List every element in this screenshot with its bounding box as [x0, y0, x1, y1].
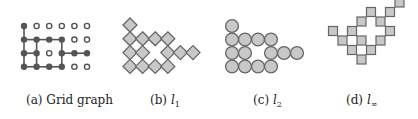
circle-shape: [239, 33, 252, 46]
square-shape: [357, 55, 366, 64]
filled-node: [84, 50, 90, 56]
circle-shape: [226, 47, 239, 60]
filled-node: [21, 23, 27, 29]
circle-shape: [265, 60, 278, 73]
square-shape: [348, 27, 357, 36]
l1-diamonds-panel: [123, 18, 200, 73]
diamond-shape: [161, 59, 175, 73]
circle-shape: [252, 60, 265, 73]
filled-node: [46, 64, 52, 70]
circle-shape: [265, 47, 278, 60]
caption-subscript: 1: [175, 100, 180, 109]
linf-squares-panel: [329, 0, 405, 64]
caption-letter: (b): [150, 93, 167, 107]
square-shape: [329, 27, 338, 36]
filled-node: [21, 36, 27, 42]
circle-shape: [239, 60, 252, 73]
square-shape: [348, 46, 357, 55]
caption-a: (a) Grid graph: [26, 93, 113, 107]
caption-letter: (d): [346, 93, 363, 107]
diamond-shape: [123, 18, 137, 32]
hollow-node: [47, 23, 52, 28]
filled-node: [59, 50, 65, 56]
hollow-node: [72, 64, 77, 69]
caption-subscript: ∞: [371, 100, 378, 109]
diamond-shape: [186, 46, 200, 60]
hollow-node: [72, 23, 77, 28]
circle-shape: [252, 33, 265, 46]
hollow-node: [84, 23, 89, 28]
filled-node: [33, 64, 39, 70]
square-shape: [376, 36, 385, 45]
square-shape: [386, 8, 395, 17]
filled-node: [21, 64, 27, 70]
square-shape: [367, 8, 376, 17]
diamond-shape: [161, 32, 175, 46]
circle-shape: [291, 47, 304, 60]
hollow-node: [72, 37, 77, 42]
filled-node: [59, 36, 65, 42]
filled-node: [21, 50, 27, 56]
grid-graph-panel: [21, 23, 90, 70]
filled-node: [46, 36, 52, 42]
hollow-node: [34, 23, 39, 28]
circle-shape: [278, 47, 291, 60]
hollow-node: [59, 23, 64, 28]
caption-b: (b) l1: [150, 93, 180, 109]
square-shape: [376, 17, 385, 26]
caption-subscript: 2: [277, 100, 282, 109]
caption-c: (c) l2: [253, 93, 282, 109]
caption-letter: (a): [26, 93, 43, 107]
square-shape: [386, 27, 395, 36]
l2-circles-panel: [226, 20, 304, 73]
square-shape: [395, 0, 404, 7]
caption-label: Grid graph: [46, 93, 113, 107]
square-shape: [367, 46, 376, 55]
filled-node: [33, 36, 39, 42]
square-shape: [357, 17, 366, 26]
filled-node: [59, 64, 65, 70]
filled-node: [33, 50, 39, 56]
circle-shape: [226, 33, 239, 46]
circle-shape: [239, 47, 252, 60]
circle-shape: [226, 60, 239, 73]
caption-letter: (c): [253, 93, 269, 107]
circle-shape: [265, 33, 278, 46]
circle-shape: [226, 20, 239, 33]
hollow-node: [84, 64, 89, 69]
caption-d: (d) l∞: [346, 93, 377, 109]
diamond-shape: [136, 46, 150, 60]
hollow-node: [47, 51, 52, 56]
square-shape: [357, 36, 366, 45]
square-shape: [338, 36, 347, 45]
filled-node: [71, 50, 77, 56]
hollow-node: [84, 37, 89, 42]
